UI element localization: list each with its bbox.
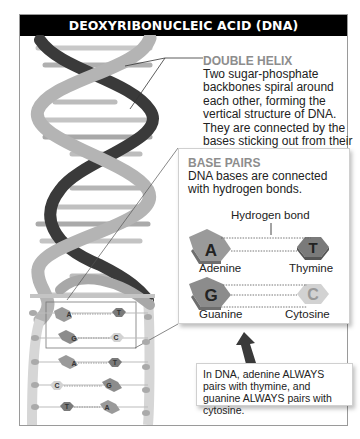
svg-text:A: A [66,311,71,318]
base-pair-guanine-cytosine: G C [189,277,329,310]
pairing-rule-note: In DNA, adenine ALWAYS pairs with thymin… [196,363,353,406]
ladder-rung: C G [35,378,148,392]
svg-text:G: G [204,286,217,305]
svg-text:A: A [104,404,109,411]
base-pair-illustrations: A T G C [179,149,351,325]
svg-text:A: A [71,360,76,367]
svg-text:T: T [117,309,122,316]
ladder-rung: G C [35,330,148,344]
svg-text:T: T [113,359,118,366]
double-helix-label: DOUBLE HELIX Two sugar-phosphate backbon… [203,55,353,162]
svg-text:C: C [307,286,319,303]
svg-text:G: G [106,382,112,389]
svg-text:C: C [54,382,59,389]
ladder-rung: A T [35,355,148,369]
svg-text:T: T [308,239,317,256]
guanine-label: Guanine [199,308,242,320]
svg-text:T: T [65,403,70,410]
svg-text:A: A [205,241,217,260]
ladder-rungs: A T G C A T C G [29,307,152,416]
arrow-icon [236,332,256,364]
adenine-label: Adenine [199,262,241,274]
base-pairs-panel: BASE PAIRS DNA bases are connected with … [178,148,350,324]
ladder-rung: T A [35,400,148,414]
cytosine-label: Cytosine [285,308,330,320]
thymine-label: Thymine [289,262,333,274]
base-pair-adenine-thymine: A T [189,229,329,264]
svg-text:C: C [113,334,118,341]
svg-text:G: G [71,335,77,342]
